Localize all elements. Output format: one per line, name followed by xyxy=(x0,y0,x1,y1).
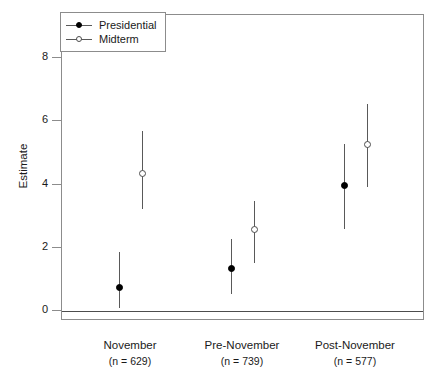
data-point-midterm xyxy=(251,226,258,233)
legend-item-midterm: Midterm xyxy=(66,32,156,46)
x-axis-group-name: November xyxy=(103,339,156,351)
chart-legend: PresidentialMidterm xyxy=(60,12,166,52)
y-axis-tick xyxy=(52,57,61,58)
x-axis-group-sample-size: (n = 577) xyxy=(315,354,395,368)
legend-key-marker xyxy=(76,36,82,42)
open-circle-icon xyxy=(66,33,92,45)
x-axis-group-name: Pre-November xyxy=(205,339,280,351)
y-axis-title: Estimate xyxy=(17,126,29,206)
legend-item-presidential: Presidential xyxy=(66,18,156,32)
estimate-error-bar-chart: Estimate 02468 November(n = 629)Pre-Nove… xyxy=(0,0,437,375)
filled-circle-icon xyxy=(66,19,92,31)
x-axis-group-label: November(n = 629) xyxy=(103,338,156,368)
x-axis-group-name: Post-November xyxy=(315,339,395,351)
legend-key-marker xyxy=(76,22,82,28)
y-axis-tick-label: 8 xyxy=(42,51,48,62)
y-axis-tick xyxy=(52,310,61,311)
error-bar xyxy=(119,252,120,308)
x-axis-group-sample-size: (n = 629) xyxy=(103,354,156,368)
data-point-midterm xyxy=(364,141,371,148)
plot-area xyxy=(61,14,424,320)
y-axis-tick xyxy=(52,247,61,248)
x-axis-group-label: Pre-November(n = 739) xyxy=(205,338,280,368)
data-point-presidential xyxy=(228,265,235,272)
data-point-presidential xyxy=(116,284,123,291)
x-axis-group-sample-size: (n = 739) xyxy=(205,354,280,368)
legend-item-label: Midterm xyxy=(99,33,139,45)
y-axis-tick-label: 6 xyxy=(42,114,48,125)
y-axis-tick xyxy=(52,120,61,121)
data-point-midterm xyxy=(139,170,146,177)
x-axis-group-label: Post-November(n = 577) xyxy=(315,338,395,368)
legend-item-label: Presidential xyxy=(99,19,156,31)
y-axis-tick-label: 4 xyxy=(42,178,48,189)
y-axis-tick-label: 2 xyxy=(42,241,48,252)
y-axis-tick xyxy=(52,184,61,185)
y-axis-tick-label: 0 xyxy=(42,304,48,315)
data-point-presidential xyxy=(341,182,348,189)
zero-reference-line xyxy=(62,311,423,312)
